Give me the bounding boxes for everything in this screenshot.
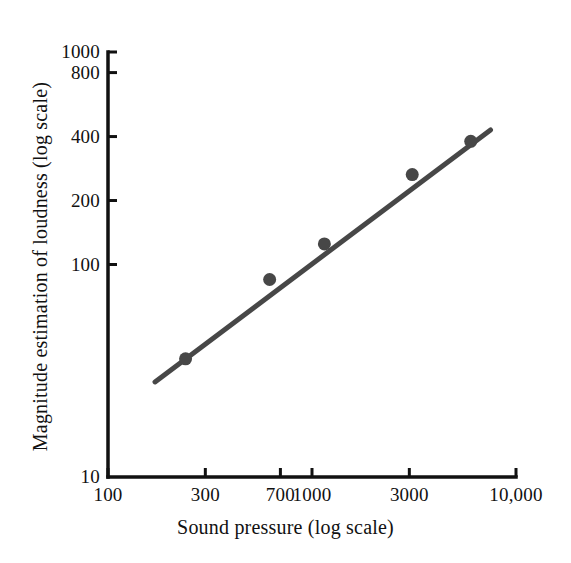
y-axis-title: Magnitude estimation of loudness (log sc… (29, 32, 52, 502)
fit-line (155, 130, 491, 382)
x-tick-label: 3000 (390, 484, 429, 506)
data-point-marker (464, 135, 477, 148)
data-point-marker (406, 168, 419, 181)
x-tick-label: 300 (191, 484, 220, 506)
x-tick-label: 100 (93, 484, 122, 506)
data-point-marker (179, 352, 192, 365)
x-axis-title: Sound pressure (log scale) (0, 516, 571, 539)
loudness-magnitude-estimation-chart: 101002004008001000 1003007001000300010,0… (0, 0, 571, 563)
regression-line (155, 130, 491, 382)
x-tick-label: 10,000 (489, 484, 542, 506)
data-point-marker (263, 273, 276, 286)
x-tick-label: 700 (266, 484, 295, 506)
x-tick-label: 1000 (293, 484, 332, 506)
data-point-marker (318, 237, 331, 250)
